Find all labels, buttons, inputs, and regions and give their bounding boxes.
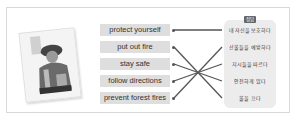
english-phrase-1[interactable]: protect yourself: [100, 24, 170, 36]
english-phrase-5[interactable]: prevent forest fires: [100, 92, 170, 104]
english-phrase-3[interactable]: stay safe: [100, 58, 170, 70]
korean-phrase-3[interactable]: 지시들을 따르다: [226, 59, 274, 69]
answer-badge: 정답: [244, 16, 256, 23]
connector-dot[interactable]: [172, 46, 175, 49]
connector-dot[interactable]: [172, 29, 175, 32]
korean-phrase-4[interactable]: 안전하게 있다: [226, 76, 274, 86]
connector-dot[interactable]: [172, 63, 175, 66]
connector-dot[interactable]: [172, 80, 175, 83]
korean-phrase-2[interactable]: 산불들을 예방하다: [226, 42, 274, 52]
connector-dot[interactable]: [172, 97, 175, 100]
english-phrase-2[interactable]: put out fire: [100, 41, 170, 53]
english-phrase-4[interactable]: follow directions: [100, 75, 170, 87]
korean-phrase-5[interactable]: 불을 끄다: [226, 93, 274, 103]
korean-phrase-1[interactable]: 내 자신을 보호하다: [226, 25, 274, 35]
